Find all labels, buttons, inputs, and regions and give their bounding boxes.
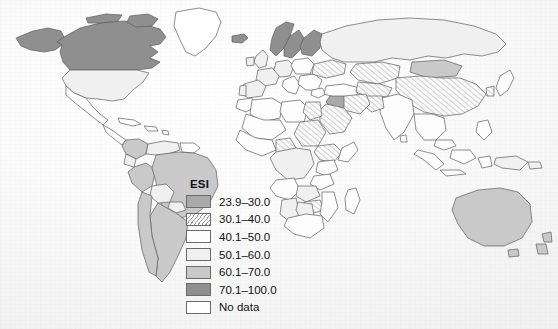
region-lesser-antilles — [162, 130, 169, 135]
legend-title: ESI — [190, 178, 312, 190]
figure-root: ESI 23.9–30.0 30.1–40.0 40.1–50.0 50.1–6… — [0, 0, 558, 329]
region-balkans — [298, 74, 322, 90]
region-greece — [311, 88, 326, 98]
region-madagascar — [345, 188, 360, 214]
region-sri-lanka — [400, 135, 407, 142]
legend-label: No data — [219, 301, 259, 313]
legend-item[interactable]: 60.1–70.0 — [186, 263, 312, 281]
legend-swatch-70-1-100-0 — [186, 283, 211, 296]
region-ethiopia — [314, 144, 342, 162]
region-poland — [291, 58, 314, 74]
legend-label: 70.1–100.0 — [219, 284, 277, 296]
region-kazakhstan — [350, 62, 400, 84]
region-borneo — [450, 150, 476, 164]
region-southeast-asia — [414, 114, 446, 140]
legend-item[interactable]: 50.1–60.0 — [186, 246, 312, 264]
legend-swatch-60-1-70-0 — [186, 266, 211, 279]
region-java — [440, 170, 466, 176]
region-guyanas — [180, 143, 200, 153]
legend-item[interactable]: 23.9–30.0 — [186, 193, 312, 211]
region-central-africa — [270, 148, 314, 180]
region-sulawesi — [478, 156, 492, 168]
region-central-america — [103, 125, 126, 145]
region-sumatra — [414, 150, 444, 170]
region-ukraine — [312, 60, 346, 78]
region-new-zealand-south — [536, 244, 548, 254]
legend-label: 60.1–70.0 — [219, 266, 270, 278]
legend-item[interactable]: 70.1–100.0 — [186, 281, 312, 299]
region-malaysia — [434, 140, 456, 150]
legend-item[interactable]: 40.1–50.0 — [186, 228, 312, 246]
region-finland — [300, 30, 322, 56]
region-japan — [496, 70, 514, 96]
region-cuba — [118, 118, 141, 126]
region-tasmania — [508, 249, 519, 257]
legend-swatch-no-data — [186, 301, 211, 314]
region-united-kingdom — [254, 50, 268, 68]
region-greenland — [174, 8, 221, 56]
legend-item[interactable]: No data — [186, 299, 312, 317]
region-philippines — [476, 120, 492, 140]
legend-label: 23.9–30.0 — [219, 196, 270, 208]
legend-item[interactable]: 30.1–40.0 — [186, 211, 312, 229]
region-portugal — [239, 85, 246, 96]
legend-swatch-50-1-60-0 — [186, 248, 211, 261]
region-india — [380, 94, 414, 140]
region-new-guinea-east — [528, 162, 542, 169]
legend-label: 40.1–50.0 — [219, 231, 270, 243]
legend-label: 30.1–40.0 — [219, 213, 270, 225]
region-iceland — [232, 34, 248, 43]
region-hispaniola — [144, 126, 158, 131]
region-kenya — [316, 160, 338, 176]
region-egypt — [303, 102, 322, 120]
region-ireland — [246, 57, 254, 66]
region-papua-new-guinea — [494, 156, 528, 170]
legend-label: 50.1–60.0 — [219, 249, 270, 261]
legend-swatch-40-1-50-0 — [186, 230, 211, 243]
region-mongolia — [410, 60, 462, 78]
region-somalia — [338, 142, 358, 162]
region-korea — [486, 86, 494, 96]
region-canada — [57, 21, 166, 70]
region-russia — [320, 18, 506, 62]
region-mozambique — [320, 192, 338, 222]
map-legend: ESI 23.9–30.0 30.1–40.0 40.1–50.0 50.1–6… — [186, 178, 312, 316]
region-australia — [452, 188, 532, 246]
legend-swatch-30-1-40-0 — [186, 213, 211, 226]
region-new-zealand-north — [542, 232, 552, 242]
region-alaska — [16, 28, 64, 52]
legend-swatch-23-9-30-0 — [186, 195, 211, 208]
region-italy — [282, 76, 300, 94]
